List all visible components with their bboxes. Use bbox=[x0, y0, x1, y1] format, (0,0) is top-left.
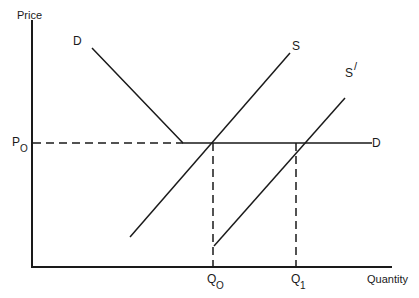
supply-s-label: S bbox=[292, 39, 300, 53]
supply-demand-diagram: Price Quantity D D S S / P O Q O Q 1 bbox=[0, 0, 419, 298]
quantity-q0-label: Q bbox=[207, 272, 216, 286]
demand-right-label: D bbox=[372, 136, 381, 150]
supply-s-prime-mark: / bbox=[354, 60, 358, 72]
demand-curve bbox=[92, 48, 372, 143]
demand-top-label: D bbox=[73, 34, 82, 48]
quantity-q1-subscript: 1 bbox=[300, 280, 306, 291]
quantity-q0-subscript: O bbox=[216, 280, 224, 291]
supply-s-prime-label: S bbox=[345, 66, 353, 80]
price-p0-subscript: O bbox=[20, 143, 28, 154]
x-axis-label: Quantity bbox=[367, 273, 408, 285]
quantity-q1-label: Q bbox=[291, 272, 300, 286]
price-p0-label: P bbox=[12, 135, 20, 149]
y-axis-label: Price bbox=[17, 9, 42, 21]
supply-curve-s-prime bbox=[214, 98, 345, 246]
supply-curve-s bbox=[130, 53, 290, 237]
